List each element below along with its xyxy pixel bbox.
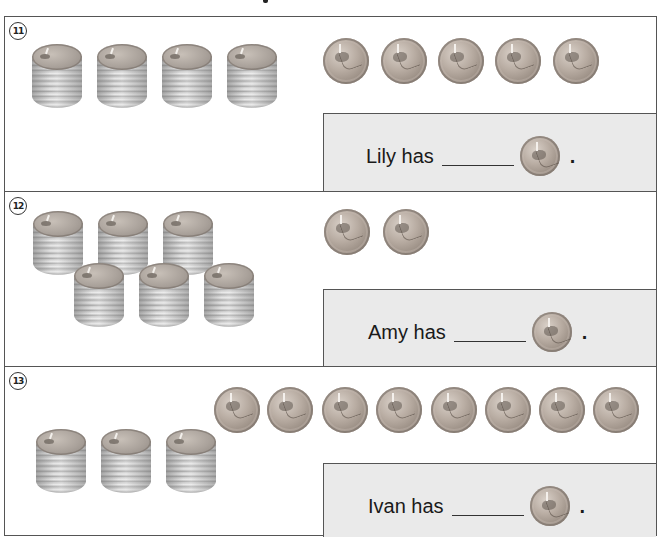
coin-stack bbox=[74, 263, 124, 339]
answer-label: Ivan has bbox=[368, 495, 444, 518]
coin-stack bbox=[166, 429, 216, 505]
penny-icon bbox=[383, 209, 429, 255]
penny-icon bbox=[376, 387, 422, 433]
answer-box: Lily has . bbox=[323, 113, 656, 191]
coin-stack bbox=[36, 429, 86, 505]
question-number: 11 bbox=[9, 22, 27, 40]
penny-icon bbox=[431, 387, 477, 433]
penny-icon bbox=[553, 38, 599, 84]
answer-label: Lily has bbox=[366, 145, 434, 168]
penny-icon bbox=[520, 136, 560, 176]
coin-counting-worksheet: 11 Lily has . 12 bbox=[4, 16, 657, 536]
penny-icon bbox=[530, 486, 570, 526]
coin-stack bbox=[101, 429, 151, 505]
coin-stack bbox=[32, 44, 82, 120]
question-13: 13 Ivan has . bbox=[5, 366, 656, 537]
answer-blank-input[interactable] bbox=[452, 497, 524, 516]
penny-icon bbox=[438, 38, 484, 84]
period: . bbox=[582, 321, 588, 344]
answer-label: Amy has bbox=[368, 321, 446, 344]
period: . bbox=[580, 495, 586, 518]
answer-sentence: Amy has . bbox=[368, 312, 587, 352]
penny-icon bbox=[267, 387, 313, 433]
penny-icon bbox=[495, 38, 541, 84]
penny-icon bbox=[214, 387, 260, 433]
period: . bbox=[570, 145, 576, 168]
answer-blank-input[interactable] bbox=[442, 147, 514, 166]
coin-stack bbox=[204, 263, 254, 339]
answer-blank-input[interactable] bbox=[454, 323, 526, 342]
penny-icon bbox=[322, 387, 368, 433]
cropped-heading-glyph bbox=[263, 0, 268, 3]
coin-stack bbox=[97, 44, 147, 120]
coin-stack bbox=[162, 44, 212, 120]
penny-icon bbox=[381, 38, 427, 84]
question-11: 11 Lily has . bbox=[5, 17, 656, 191]
question-number: 13 bbox=[9, 372, 27, 390]
penny-icon bbox=[593, 387, 639, 433]
penny-icon bbox=[485, 387, 531, 433]
question-number: 12 bbox=[9, 197, 27, 215]
answer-box: Amy has . bbox=[323, 289, 656, 366]
coin-stack bbox=[227, 44, 277, 120]
answer-box: Ivan has . bbox=[323, 463, 656, 537]
question-12: 12 Amy has . bbox=[5, 191, 656, 366]
answer-sentence: Lily has . bbox=[366, 136, 575, 176]
coin-stack bbox=[139, 263, 189, 339]
answer-sentence: Ivan has . bbox=[368, 486, 585, 526]
penny-icon bbox=[532, 312, 572, 352]
penny-icon bbox=[323, 38, 369, 84]
penny-icon bbox=[324, 209, 370, 255]
penny-icon bbox=[539, 387, 585, 433]
